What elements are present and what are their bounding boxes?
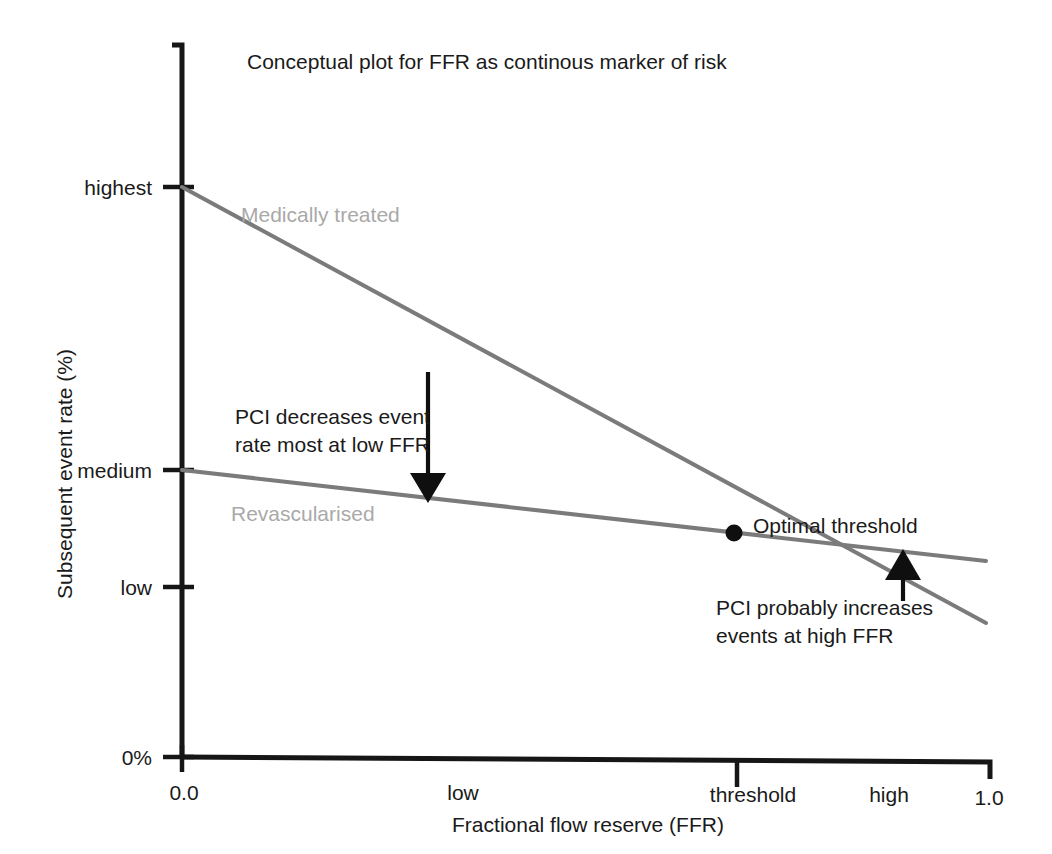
y-tick-label-highest: highest [84,176,152,199]
annotation-up-line2: events at high FFR [716,624,893,647]
y-tick-label-zero: 0% [122,746,152,769]
x-tick-label-one: 1.0 [974,786,1003,809]
x-tick-label-high: high [869,783,909,806]
x-tick-label-zero: 0.0 [169,781,198,804]
chart-title: Conceptual plot for FFR as continous mar… [247,50,727,73]
conceptual-ffr-chart: highest medium low 0% 0.0 low threshold … [0,0,1052,854]
x-tick-label-low: low [447,781,479,804]
up-arrow-icon [885,549,921,601]
y-tick-label-medium: medium [77,459,152,482]
y-axis-title: Subsequent event rate (%) [53,349,76,599]
y-axis-line [172,45,182,757]
annotation-down-line2: rate most at low FFR [235,433,430,456]
optimal-threshold-dot [726,525,743,542]
series-label-medically-treated: Medically treated [241,203,400,226]
series-label-revascularised: Revascularised [231,502,375,525]
optimal-threshold-label: Optimal threshold [753,514,918,537]
annotation-up-line1: PCI probably increases [716,596,933,619]
chart-canvas: highest medium low 0% 0.0 low threshold … [0,0,1052,854]
x-axis-title: Fractional flow reserve (FFR) [452,813,724,836]
y-tick-label-low: low [120,576,152,599]
x-tick-label-threshold: threshold [710,783,796,806]
x-axis-line [182,757,990,779]
annotation-down-line1: PCI decreases event [235,405,430,428]
